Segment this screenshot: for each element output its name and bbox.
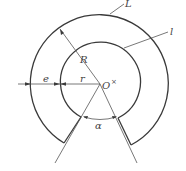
label-O: O xyxy=(102,80,110,91)
label-e: e xyxy=(43,73,49,84)
diagram-canvas: L l R r e O × α xyxy=(0,0,186,171)
label-L: L xyxy=(124,0,132,9)
label-alpha: α xyxy=(95,120,102,131)
radial-line-right xyxy=(100,84,137,163)
radial-line-left xyxy=(55,84,100,163)
label-r: r xyxy=(80,73,86,84)
center-mark: × xyxy=(111,78,117,86)
leader-L xyxy=(110,4,124,14)
alpha-arrow-left xyxy=(83,116,88,119)
leader-l xyxy=(124,32,168,48)
label-l: l xyxy=(170,26,173,37)
label-R: R xyxy=(79,54,88,65)
inner-arc-l xyxy=(60,42,140,118)
arrow-e-left-inner xyxy=(54,82,60,85)
gap-edge-left xyxy=(64,117,81,143)
gap-edge-right xyxy=(118,118,131,145)
